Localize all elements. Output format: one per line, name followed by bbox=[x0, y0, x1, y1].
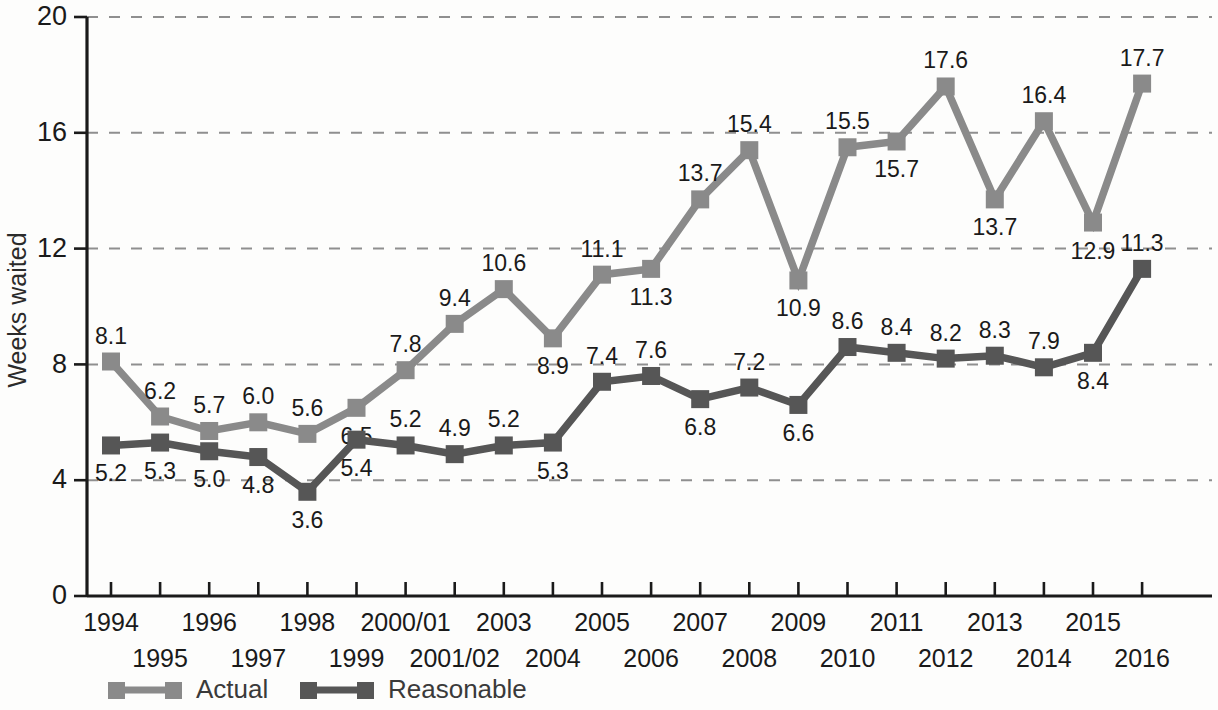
data-point-marker[interactable] bbox=[200, 442, 218, 460]
x-tick-label: 1994 bbox=[83, 608, 139, 636]
legend-marker-right bbox=[357, 682, 374, 699]
data-point-label: 5.2 bbox=[390, 406, 422, 432]
data-point-label: 17.6 bbox=[923, 47, 968, 73]
data-point-marker[interactable] bbox=[495, 280, 513, 298]
data-point-label: 8.2 bbox=[930, 320, 962, 346]
data-point-label: 5.7 bbox=[193, 392, 225, 418]
data-point-label: 10.9 bbox=[776, 295, 821, 321]
data-point-marker[interactable] bbox=[200, 422, 218, 440]
data-point-label: 8.3 bbox=[979, 317, 1011, 343]
data-point-marker[interactable] bbox=[102, 353, 120, 371]
data-point-marker[interactable] bbox=[446, 315, 464, 333]
x-tick-label: 2007 bbox=[672, 608, 728, 636]
data-point-marker[interactable] bbox=[986, 347, 1004, 365]
data-point-label: 17.7 bbox=[1120, 45, 1165, 71]
data-point-marker[interactable] bbox=[691, 390, 709, 408]
data-point-label: 8.6 bbox=[832, 308, 864, 334]
data-point-marker[interactable] bbox=[642, 260, 660, 278]
data-point-marker[interactable] bbox=[102, 436, 120, 454]
data-point-marker[interactable] bbox=[986, 190, 1004, 208]
legend-label-reasonable[interactable]: Reasonable bbox=[388, 674, 527, 704]
data-point-marker[interactable] bbox=[544, 434, 562, 452]
data-point-marker[interactable] bbox=[249, 413, 267, 431]
data-point-marker[interactable] bbox=[789, 271, 807, 289]
data-point-marker[interactable] bbox=[937, 77, 955, 95]
data-point-marker[interactable] bbox=[151, 434, 169, 452]
data-point-marker[interactable] bbox=[593, 373, 611, 391]
data-point-label: 6.8 bbox=[684, 414, 716, 440]
data-point-marker[interactable] bbox=[348, 399, 366, 417]
data-point-marker[interactable] bbox=[348, 431, 366, 449]
data-point-label: 7.4 bbox=[586, 343, 618, 369]
data-point-marker[interactable] bbox=[298, 425, 316, 443]
data-point-label: 6.6 bbox=[782, 420, 814, 446]
data-point-label: 15.7 bbox=[874, 156, 919, 182]
x-tick-label: 2003 bbox=[476, 608, 532, 636]
legend: ActualReasonable bbox=[108, 674, 527, 704]
data-point-marker[interactable] bbox=[544, 329, 562, 347]
data-point-label: 7.2 bbox=[733, 349, 765, 375]
x-tick-label: 2012 bbox=[918, 644, 974, 672]
data-point-label: 5.4 bbox=[341, 455, 373, 481]
data-point-marker[interactable] bbox=[1084, 214, 1102, 232]
data-point-label: 11.3 bbox=[1121, 230, 1164, 256]
data-point-marker[interactable] bbox=[1133, 75, 1151, 93]
data-point-label: 6.0 bbox=[242, 383, 274, 409]
data-point-label: 6.2 bbox=[144, 378, 176, 404]
data-point-marker[interactable] bbox=[888, 132, 906, 150]
data-point-label: 8.4 bbox=[1077, 368, 1109, 394]
data-point-marker[interactable] bbox=[839, 338, 857, 356]
data-point-label: 5.0 bbox=[193, 466, 225, 492]
data-point-marker[interactable] bbox=[1035, 112, 1053, 130]
data-point-marker[interactable] bbox=[1035, 358, 1053, 376]
x-tick-label: 2005 bbox=[574, 608, 630, 636]
data-point-marker[interactable] bbox=[740, 379, 758, 397]
data-point-label: 5.6 bbox=[291, 395, 323, 421]
x-tick-label: 2015 bbox=[1065, 608, 1121, 636]
data-point-marker[interactable] bbox=[642, 367, 660, 385]
data-point-marker[interactable] bbox=[839, 138, 857, 156]
data-point-marker[interactable] bbox=[397, 436, 415, 454]
x-tick-label: 2014 bbox=[1016, 644, 1072, 672]
series-actual: 8.16.25.76.05.66.57.89.410.68.911.111.31… bbox=[95, 45, 1164, 449]
x-tick-label: 1996 bbox=[181, 608, 237, 636]
legend-label-actual[interactable]: Actual bbox=[196, 674, 268, 704]
data-point-marker[interactable] bbox=[298, 483, 316, 501]
data-point-marker[interactable] bbox=[740, 141, 758, 159]
data-point-marker[interactable] bbox=[446, 445, 464, 463]
legend-marker-left bbox=[300, 682, 317, 699]
y-tick-label: 16 bbox=[37, 117, 67, 147]
y-axis-title-group: Weeks waited bbox=[3, 232, 31, 387]
data-point-marker[interactable] bbox=[888, 344, 906, 362]
data-point-label: 15.5 bbox=[825, 108, 870, 134]
legend-marker-right bbox=[165, 682, 182, 699]
data-point-label: 16.4 bbox=[1022, 82, 1067, 108]
data-point-label: 9.4 bbox=[439, 285, 471, 311]
data-point-marker[interactable] bbox=[397, 361, 415, 379]
x-tick-label: 1997 bbox=[230, 644, 286, 672]
data-point-marker[interactable] bbox=[151, 408, 169, 426]
x-tick-label: 2008 bbox=[721, 644, 777, 672]
y-tick-label: 4 bbox=[52, 464, 67, 494]
data-point-marker[interactable] bbox=[1133, 260, 1151, 278]
data-point-marker[interactable] bbox=[937, 350, 955, 368]
legend-marker-left bbox=[108, 682, 125, 699]
data-point-marker[interactable] bbox=[691, 190, 709, 208]
data-point-marker[interactable] bbox=[495, 436, 513, 454]
y-axis-title: Weeks waited bbox=[3, 232, 31, 387]
data-point-label: 13.7 bbox=[972, 214, 1017, 240]
data-point-label: 5.2 bbox=[95, 460, 127, 486]
data-point-marker[interactable] bbox=[1084, 344, 1102, 362]
data-point-label: 8.9 bbox=[537, 353, 569, 379]
data-point-label: 13.7 bbox=[678, 160, 723, 186]
data-point-label: 15.4 bbox=[727, 111, 772, 137]
data-point-label: 11.3 bbox=[630, 284, 673, 310]
data-point-label: 8.1 bbox=[95, 323, 127, 349]
data-point-label: 4.8 bbox=[242, 472, 274, 498]
data-point-marker[interactable] bbox=[249, 448, 267, 466]
x-tick-label: 1995 bbox=[132, 644, 188, 672]
data-point-marker[interactable] bbox=[789, 396, 807, 414]
y-tick-label: 20 bbox=[37, 1, 67, 31]
data-point-marker[interactable] bbox=[593, 266, 611, 284]
x-tick-label: 2004 bbox=[525, 644, 581, 672]
